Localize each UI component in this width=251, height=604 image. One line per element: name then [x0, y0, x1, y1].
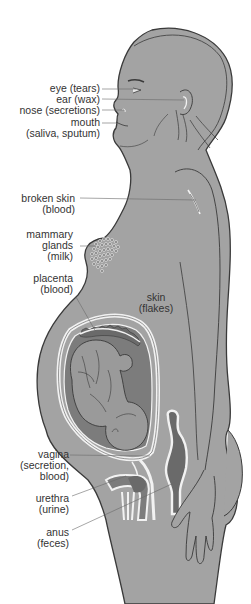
- label-nose-text: nose (secretions): [19, 105, 100, 116]
- label-mammary-line3: (milk): [26, 251, 73, 262]
- pregnant-body-diagram: eye (tears) ear (wax) nose (secretions) …: [0, 0, 251, 604]
- label-mouth-line2: (saliva, sputum): [26, 128, 100, 139]
- label-vagina-line3: blood): [20, 471, 69, 482]
- label-placenta-line2: (blood): [33, 284, 73, 295]
- label-urethra: urethra (urine): [36, 493, 69, 515]
- label-placenta: placenta (blood): [33, 273, 73, 295]
- label-mouth: mouth (saliva, sputum): [26, 117, 100, 139]
- label-urethra-line2: (urine): [36, 504, 69, 515]
- label-broken-skin: broken skin (blood): [21, 193, 75, 215]
- label-anus-line2: (feces): [37, 538, 69, 549]
- label-broken-skin-line2: (blood): [21, 204, 75, 215]
- label-skin: skin (flakes): [136, 292, 176, 314]
- label-nose: nose (secretions): [19, 105, 100, 116]
- label-vagina: vagina (secretion, blood): [20, 449, 69, 482]
- label-anus: anus (feces): [37, 527, 69, 549]
- label-mammary-glands: mammary glands (milk): [26, 229, 73, 262]
- label-skin-line2: (flakes): [136, 303, 176, 314]
